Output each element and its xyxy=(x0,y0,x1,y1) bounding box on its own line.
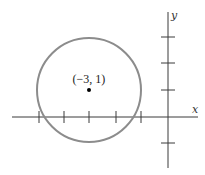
center-point xyxy=(87,88,91,92)
x-axis-label: x xyxy=(192,103,199,116)
coordinate-plane: (−3, 1) x y xyxy=(0,0,205,175)
y-axis-label: y xyxy=(170,9,178,22)
center-label: (−3, 1) xyxy=(73,72,106,86)
